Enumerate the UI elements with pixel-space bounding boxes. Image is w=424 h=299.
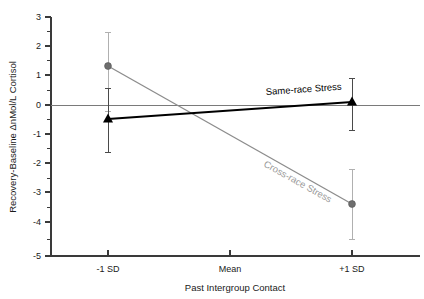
y-tick-label-neg1: -1: [33, 129, 41, 139]
cortisol-recovery-chart: 3 2 1 0 -1 -2 -3 -4 -5 -1 SD Mean +1 SD …: [0, 0, 424, 299]
y-tick-label-1: 1: [36, 70, 41, 80]
data-point-cross-race-minus1sd: [105, 63, 112, 70]
y-tick-label-neg3: -3: [33, 187, 41, 197]
x-tick-label-plus1sd: +1 SD: [339, 264, 365, 274]
x-tick-label-mean: Mean: [219, 264, 242, 274]
y-tick-label-neg5: -5: [33, 251, 41, 261]
data-point-cross-race-plus1sd: [349, 201, 356, 208]
y-tick-label-0: 0: [36, 100, 41, 110]
y-tick-label-3: 3: [36, 12, 41, 22]
x-tick-label-minus1sd: -1 SD: [96, 264, 120, 274]
x-axis-title: Past Intergroup Contact: [185, 282, 286, 293]
chart-plot-area: 3 2 1 0 -1 -2 -3 -4 -5 -1 SD Mean +1 SD …: [0, 0, 424, 299]
y-tick-label-neg2: -2: [33, 158, 41, 168]
y-tick-label-neg4: -4: [33, 217, 41, 227]
series-annotation-same-race: Same-race Stress: [265, 81, 342, 97]
y-tick-label-2: 2: [36, 41, 41, 51]
data-point-same-race-plus1sd: [347, 97, 357, 106]
y-axis-title: Recovery-Baseline ΔnMol/L Cortisol: [7, 61, 18, 213]
series-annotation-cross-race: Cross-race Stress: [262, 158, 334, 205]
